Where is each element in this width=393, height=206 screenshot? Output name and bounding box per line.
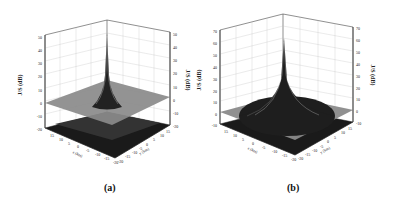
svg-text:-10: -10 [356,121,361,126]
svg-text:40: 40 [356,62,360,67]
svg-text:-5: -5 [86,148,89,153]
svg-text:70: 70 [213,29,217,34]
svg-text:10: 10 [160,133,164,138]
svg-text:30: 30 [173,58,177,63]
svg-text:20: 20 [173,71,177,76]
svg-text:-5: -5 [262,145,265,150]
svg-text:30: 30 [38,61,42,66]
svg-text:-20: -20 [118,159,123,164]
svg-text:-20: -20 [173,124,178,129]
svg-text:0: 0 [252,141,254,146]
svg-text:50: 50 [173,32,177,37]
svg-text:10: 10 [233,133,237,138]
svg-text:-15: -15 [125,154,130,159]
svg-text:0: 0 [356,109,358,114]
svg-text:5: 5 [242,137,244,142]
svg-text:10: 10 [59,137,63,142]
svg-text:50: 50 [38,35,42,40]
svg-text:15: 15 [50,133,54,138]
svg-text:10: 10 [356,97,360,102]
svg-text:0: 0 [215,112,217,117]
svg-text:50: 50 [213,53,217,58]
svg-text:J/S (dB): J/S (dB) [184,70,191,91]
svg-text:x (km): x (km) [247,145,259,154]
surface-plot-b: 70 60 50 40 30 20 10 0 -10 J/S (dB) 70 6… [195,0,393,206]
svg-text:15: 15 [348,126,352,131]
caption-a: (a) [104,182,116,193]
caption-b: (b) [287,182,299,193]
svg-text:40: 40 [38,48,42,53]
svg-text:-15: -15 [305,152,310,157]
svg-text:10: 10 [341,130,345,135]
svg-text:0: 0 [77,144,79,149]
svg-text:10: 10 [173,85,177,90]
chart-panel-b: 70 60 50 40 30 20 10 0 -10 J/S (dB) 70 6… [195,0,393,206]
svg-text:0: 0 [327,139,329,144]
svg-text:-20: -20 [291,157,296,162]
svg-text:20: 20 [38,74,42,79]
svg-text:-10: -10 [37,114,42,119]
svg-text:-10: -10 [173,111,178,116]
svg-text:60: 60 [356,38,360,43]
svg-text:5: 5 [334,135,336,140]
svg-text:J/S (dB): J/S (dB) [17,75,24,96]
svg-text:20: 20 [213,89,217,94]
svg-text:5: 5 [153,137,155,142]
svg-text:40: 40 [213,65,217,70]
svg-text:70: 70 [356,26,360,31]
svg-text:-10: -10 [95,152,100,157]
svg-text:15: 15 [224,129,228,134]
surface-plot-a: 50 40 30 20 10 0 -10 -20 J/S (dB) 50 40 … [0,0,200,206]
svg-text:x (km): x (km) [72,149,84,158]
svg-text:J/S (dB): J/S (dB) [196,70,203,91]
svg-text:15: 15 [166,129,170,134]
svg-text:0: 0 [40,101,42,106]
svg-text:-10: -10 [272,149,277,154]
svg-text:50: 50 [356,50,360,55]
svg-text:-15: -15 [282,153,287,158]
svg-text:J/S (dB): J/S (dB) [369,65,376,86]
svg-text:0: 0 [173,98,175,103]
svg-text:20: 20 [356,86,360,91]
svg-text:-10: -10 [312,148,317,153]
chart-panel-a: 50 40 30 20 10 0 -10 -20 J/S (dB) 50 40 … [0,0,200,206]
svg-text:5: 5 [68,141,70,146]
svg-text:60: 60 [213,41,217,46]
svg-text:40: 40 [173,45,177,50]
svg-text:10: 10 [38,88,42,93]
svg-text:-10: -10 [132,150,137,155]
svg-text:30: 30 [213,77,217,82]
svg-text:-20: -20 [298,156,303,161]
svg-text:-10: -10 [212,123,217,128]
svg-text:-15: -15 [104,156,109,161]
svg-text:-20: -20 [37,127,42,132]
svg-text:10: 10 [213,100,217,105]
svg-text:30: 30 [356,74,360,79]
